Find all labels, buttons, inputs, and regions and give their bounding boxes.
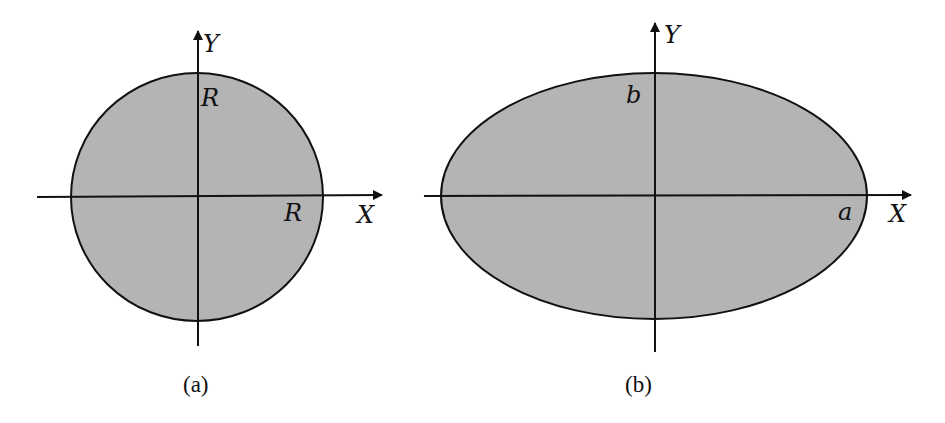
y-axis-label-b: Y xyxy=(664,21,682,49)
diagram-canvas: Y X R R (a) Y X b a (b) xyxy=(0,0,945,423)
figure-b-ellipse: Y X b a (b) xyxy=(424,21,911,397)
x-axis-label-b: X xyxy=(887,200,907,228)
radius-label-x: R xyxy=(283,199,302,227)
x-axis-b xyxy=(424,195,911,196)
radius-label-y: R xyxy=(200,84,219,112)
caption-b: (b) xyxy=(625,372,652,397)
figure-a-circle: Y X R R (a) xyxy=(37,30,382,397)
semi-minor-label: b xyxy=(626,81,641,109)
y-axis-label-a: Y xyxy=(203,30,221,58)
caption-a: (a) xyxy=(183,372,209,397)
semi-major-label: a xyxy=(838,198,852,226)
x-axis-label-a: X xyxy=(355,201,375,229)
